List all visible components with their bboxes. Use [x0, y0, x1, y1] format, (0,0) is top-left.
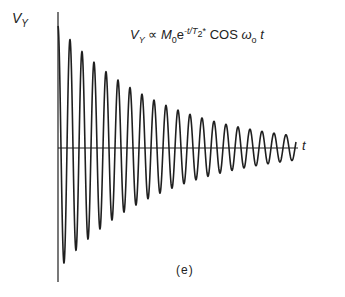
formula-v: V [130, 27, 139, 42]
y-axis-label-sub: Y [21, 18, 28, 29]
figure-caption: (e) [176, 263, 194, 277]
x-axis-label: t [302, 138, 306, 153]
y-axis-label: VY [12, 10, 28, 29]
formula-omega-sub: o [252, 35, 257, 45]
damped-oscillation-curve [58, 26, 296, 263]
formula-proportional: ∝ [145, 27, 161, 42]
formula-omega: ω [241, 27, 251, 42]
formula-cos: COS [206, 27, 241, 42]
formula-m: M [161, 27, 172, 42]
formula-e: e [177, 27, 184, 42]
formula-exponent: -t/T [184, 26, 198, 36]
formula-t: t [260, 27, 264, 42]
chart-formula: VY ∝ M0e-t/T2* COS ωo t [130, 26, 264, 45]
y-axis-label-text: V [12, 10, 21, 26]
